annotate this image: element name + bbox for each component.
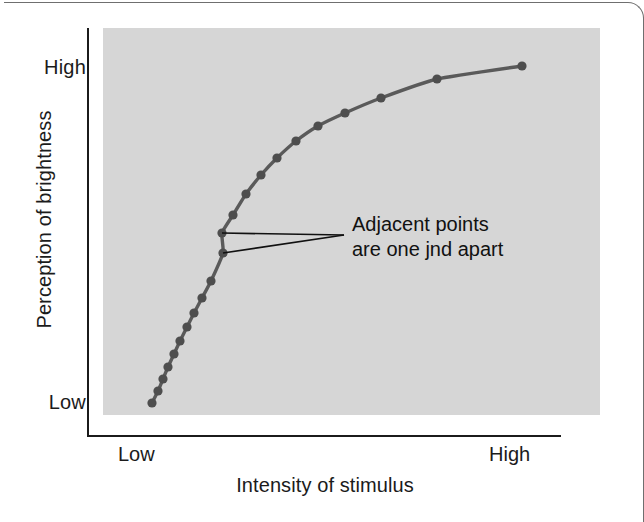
leader-line-upper bbox=[222, 233, 344, 235]
data-point bbox=[153, 386, 162, 395]
data-point bbox=[228, 210, 237, 219]
data-point bbox=[313, 121, 322, 130]
data-point bbox=[291, 136, 300, 145]
data-point bbox=[517, 61, 526, 70]
data-point bbox=[272, 153, 281, 162]
data-point bbox=[147, 398, 156, 407]
data-point bbox=[163, 362, 172, 371]
annotation-jnd-note: Adjacent points are one jnd apart bbox=[352, 212, 503, 262]
leader-line-lower bbox=[223, 235, 344, 253]
data-point bbox=[241, 189, 250, 198]
data-point bbox=[432, 74, 441, 83]
data-point bbox=[169, 349, 178, 358]
annotation-line-1: Adjacent points bbox=[352, 212, 503, 237]
data-point bbox=[256, 170, 265, 179]
data-point bbox=[189, 308, 198, 317]
data-point bbox=[206, 276, 215, 285]
annotation-line-2: are one jnd apart bbox=[352, 237, 503, 262]
annotation-leader-lines bbox=[222, 233, 344, 253]
data-point bbox=[182, 322, 191, 331]
data-point bbox=[158, 374, 167, 383]
data-point bbox=[197, 293, 206, 302]
data-point bbox=[175, 336, 184, 345]
data-point bbox=[376, 93, 385, 102]
data-point bbox=[340, 108, 349, 117]
